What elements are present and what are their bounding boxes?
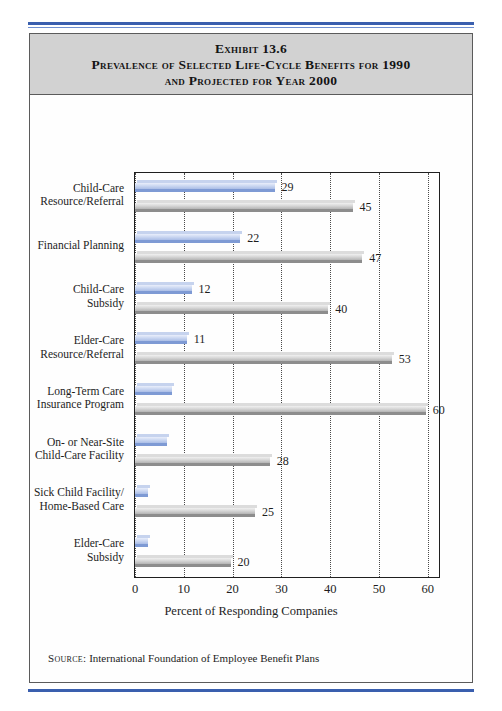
category-label-4: Long-Term CareInsurance Program bbox=[0, 385, 124, 412]
category-axis-labels: Child-CareResource/ReferralFinancial Pla… bbox=[30, 172, 130, 578]
category-label-5: On- or Near-SiteChild-Care Facility bbox=[0, 436, 124, 463]
bar-bottom-face bbox=[135, 291, 192, 294]
bar-1990-5 bbox=[135, 434, 169, 446]
x-tick-label-40: 40 bbox=[324, 582, 337, 597]
bar-1990-0 bbox=[135, 180, 277, 192]
bar-value-2000-0: 45 bbox=[360, 201, 372, 213]
x-tick-label-0: 0 bbox=[132, 582, 138, 597]
category-label-line: Subsidy bbox=[0, 551, 124, 565]
category-label-line: Child-Care bbox=[0, 283, 124, 297]
chart-body: Child-CareResource/ReferralFinancial Pla… bbox=[30, 95, 472, 683]
bar-bottom-face bbox=[135, 494, 148, 497]
category-label-line: Subsidy bbox=[0, 297, 124, 311]
category-label-line: On- or Near-Site bbox=[0, 436, 124, 450]
exhibit-title-line-1: Prevalence of Selected Life-Cycle Benefi… bbox=[92, 57, 411, 73]
category-label-line: Elder-Care bbox=[0, 334, 124, 348]
x-tick-label-20: 20 bbox=[226, 582, 239, 597]
category-label-line: Sick Child Facility/ bbox=[0, 486, 124, 500]
category-label-3: Elder-CareResource/Referral bbox=[0, 334, 124, 361]
bar-bottom-face bbox=[135, 311, 328, 314]
bar-2000-6 bbox=[135, 505, 257, 517]
bars-layer: 294522471240115360282520 bbox=[135, 172, 440, 578]
bar-value-2000-7: 20 bbox=[238, 556, 250, 568]
bar-1990-2 bbox=[135, 282, 194, 294]
category-label-line: Elder-Care bbox=[0, 537, 124, 551]
bar-value-1990-2: 12 bbox=[199, 283, 211, 295]
x-tick-label-50: 50 bbox=[373, 582, 386, 597]
bar-1990-1 bbox=[135, 231, 242, 243]
bar-bottom-face bbox=[135, 412, 426, 415]
category-label-0: Child-CareResource/Referral bbox=[0, 182, 124, 209]
category-label-line: Financial Planning bbox=[0, 239, 124, 253]
x-tick-label-10: 10 bbox=[178, 582, 191, 597]
bar-1990-3 bbox=[135, 332, 189, 344]
bar-bottom-face bbox=[135, 392, 172, 395]
category-label-line: Long-Term Care bbox=[0, 385, 124, 399]
bar-value-1990-0: 29 bbox=[282, 181, 294, 193]
bar-2000-2 bbox=[135, 302, 330, 314]
bar-value-2000-4: 60 bbox=[433, 404, 445, 416]
category-label-line: Resource/Referral bbox=[0, 348, 124, 362]
bar-bottom-face bbox=[135, 463, 270, 466]
x-axis-tick-labels: 0102030405060 bbox=[135, 582, 440, 598]
bar-value-2000-2: 40 bbox=[335, 303, 347, 315]
exhibit-title-band: Exhibit 13.6 Prevalence of Selected Life… bbox=[30, 34, 472, 95]
top-decorative-rule bbox=[28, 22, 474, 28]
x-tick-label-60: 60 bbox=[422, 582, 435, 597]
category-label-line: Resource/Referral bbox=[0, 195, 124, 209]
category-label-2: Child-CareSubsidy bbox=[0, 283, 124, 310]
exhibit-frame: Exhibit 13.6 Prevalence of Selected Life… bbox=[29, 33, 473, 683]
bar-bottom-face bbox=[135, 361, 392, 364]
bar-value-2000-6: 25 bbox=[262, 506, 274, 518]
category-label-7: Elder-CareSubsidy bbox=[0, 537, 124, 564]
bar-bottom-face bbox=[135, 189, 275, 192]
exhibit-title-line-2: and Projected for Year 2000 bbox=[165, 73, 338, 89]
category-label-line: Home-Based Care bbox=[0, 500, 124, 514]
bar-value-2000-1: 47 bbox=[369, 252, 381, 264]
bar-bottom-face bbox=[135, 209, 353, 212]
category-label-line: Insurance Program bbox=[0, 398, 124, 412]
bar-1990-6 bbox=[135, 485, 150, 497]
bar-2000-3 bbox=[135, 352, 394, 364]
bar-bottom-face bbox=[135, 564, 231, 567]
bar-1990-4 bbox=[135, 383, 174, 395]
bar-value-1990-3: 11 bbox=[194, 333, 206, 345]
bottom-decorative-rule bbox=[28, 689, 474, 692]
x-tick-label-30: 30 bbox=[275, 582, 288, 597]
bar-value-2000-3: 53 bbox=[399, 353, 411, 365]
exhibit-number: Exhibit 13.6 bbox=[215, 41, 287, 57]
x-axis-title: Percent of Responding Companies bbox=[30, 604, 472, 619]
bar-2000-4 bbox=[135, 403, 428, 415]
source-note: Source: International Foundation of Empl… bbox=[48, 652, 319, 664]
category-label-line: Child-Care Facility bbox=[0, 449, 124, 463]
category-label-1: Financial Planning bbox=[0, 239, 124, 253]
source-text: International Foundation of Employee Ben… bbox=[89, 652, 319, 664]
bar-bottom-face bbox=[135, 341, 187, 344]
category-label-line: Child-Care bbox=[0, 182, 124, 196]
bar-bottom-face bbox=[135, 240, 240, 243]
bar-2000-5 bbox=[135, 454, 272, 466]
bar-value-2000-5: 28 bbox=[277, 455, 289, 467]
bar-2000-1 bbox=[135, 251, 364, 263]
bar-bottom-face bbox=[135, 544, 148, 547]
source-keyword: Source: bbox=[48, 652, 86, 664]
category-label-6: Sick Child Facility/Home-Based Care bbox=[0, 486, 124, 513]
bar-bottom-face bbox=[135, 443, 167, 446]
bar-bottom-face bbox=[135, 514, 255, 517]
top-rule-thin bbox=[28, 27, 474, 28]
bar-2000-0 bbox=[135, 200, 355, 212]
bar-value-1990-1: 22 bbox=[247, 232, 259, 244]
bar-1990-7 bbox=[135, 535, 150, 547]
bar-2000-7 bbox=[135, 555, 233, 567]
bar-bottom-face bbox=[135, 260, 362, 263]
